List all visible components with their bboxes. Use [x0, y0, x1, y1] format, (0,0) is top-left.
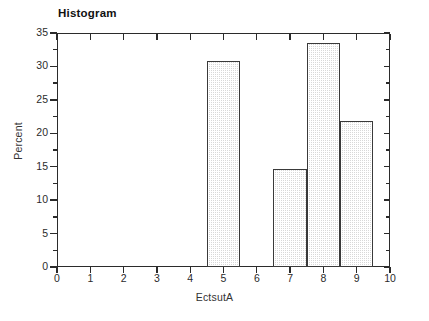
y-minor-tick-right [386, 49, 390, 50]
y-tick-label: 10 [8, 193, 48, 205]
y-tick-left [50, 266, 57, 267]
y-tick-left [50, 66, 57, 67]
y-minor-tick-right [386, 183, 390, 184]
x-axis-title: EctsutA [0, 291, 429, 303]
y-minor-tick-right [386, 250, 390, 251]
y-axis-title: Percent [12, 101, 24, 181]
y-tick-right [384, 32, 390, 33]
x-tick-top [356, 34, 357, 40]
y-minor-tick-left [53, 216, 57, 217]
x-tick-top [56, 34, 57, 40]
y-tick-label: 35 [8, 26, 48, 38]
y-minor-tick-right [386, 149, 390, 150]
y-tick-right [384, 199, 390, 200]
y-tick-label: 0 [8, 260, 48, 272]
x-tick-top [256, 34, 257, 40]
y-minor-tick-left [53, 116, 57, 117]
x-tick-top [156, 34, 157, 40]
y-tick-left [50, 32, 57, 33]
x-tick-top [289, 34, 290, 40]
y-minor-tick-left [53, 183, 57, 184]
histogram-bar [307, 43, 340, 267]
x-tick-top [323, 34, 324, 40]
y-minor-tick-left [53, 49, 57, 50]
y-tick-left [50, 233, 57, 234]
x-tick-top [90, 34, 91, 40]
y-tick-label: 30 [8, 59, 48, 71]
y-tick-label: 5 [8, 227, 48, 239]
y-tick-right [384, 133, 390, 134]
x-tick-top [223, 34, 224, 40]
histogram-bar [207, 61, 240, 267]
y-tick-right [384, 233, 390, 234]
x-tick-top [190, 34, 191, 40]
y-minor-tick-right [386, 216, 390, 217]
y-minor-tick-right [386, 116, 390, 117]
x-tick-label: 10 [370, 272, 410, 284]
y-minor-tick-right [386, 82, 390, 83]
y-tick-left [50, 199, 57, 200]
y-minor-tick-left [53, 82, 57, 83]
histogram-bar [273, 169, 306, 267]
y-tick-left [50, 166, 57, 167]
x-tick-top [389, 34, 390, 40]
y-minor-tick-left [53, 250, 57, 251]
y-tick-right [384, 266, 390, 267]
y-tick-right [384, 66, 390, 67]
y-tick-left [50, 133, 57, 134]
histogram-figure: Histogram 01234567891005101520253035 Per… [0, 0, 429, 321]
chart-title: Histogram [58, 7, 117, 19]
y-tick-left [50, 99, 57, 100]
y-tick-right [384, 99, 390, 100]
x-tick-top [123, 34, 124, 40]
y-tick-right [384, 166, 390, 167]
histogram-bar [340, 121, 373, 267]
y-minor-tick-left [53, 149, 57, 150]
